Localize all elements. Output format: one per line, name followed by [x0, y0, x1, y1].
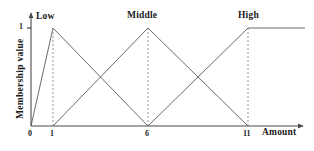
series-middle	[53, 28, 248, 126]
series-label-low: Low	[36, 12, 55, 22]
series-high	[148, 28, 305, 126]
x-tick-label-1: 1	[50, 130, 54, 138]
x-axis-title: Amount	[262, 128, 296, 138]
x-tick-label-11: 11	[243, 130, 251, 138]
series-low	[31, 28, 148, 126]
y-axis-title: Membership value	[16, 38, 26, 119]
x-tick-label-0: 0	[28, 130, 32, 138]
y-tick-label-1: 1	[19, 23, 23, 31]
fuzzy-membership-chart: Low Middle High Membership value 1 0 1 6…	[0, 0, 314, 151]
series-label-middle: Middle	[127, 11, 157, 21]
x-tick-label-6: 6	[145, 130, 149, 138]
series-label-high: High	[238, 11, 259, 21]
